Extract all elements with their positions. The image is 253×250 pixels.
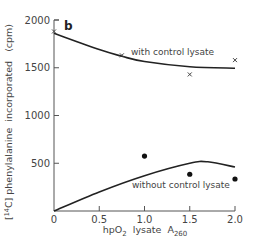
- y-tick-label: 1500: [25, 62, 50, 73]
- dot-marker: [187, 172, 192, 177]
- dot-marker: [232, 176, 237, 181]
- y-axis-label: [14C] phenylalanine incorporated (cpm): [3, 24, 14, 220]
- x-marker: [188, 72, 192, 76]
- y-tick-label: 500: [31, 158, 50, 169]
- panel-label: b: [64, 19, 73, 33]
- x-tick-label: 0: [51, 214, 57, 225]
- y-tick-label: 1000: [25, 110, 50, 121]
- dot-marker: [142, 153, 147, 158]
- y-tick-label: 2000: [25, 15, 50, 26]
- x-axis-label: hpO2 lysate A260: [103, 224, 188, 238]
- x-tick-label: 2.0: [227, 214, 243, 225]
- x-marker: [233, 58, 237, 62]
- annotation-with-control: with control lysate: [131, 47, 215, 57]
- chart: 00.51.01.52.0500100015002000 b with cont…: [0, 0, 253, 250]
- x-tick-label: 1.5: [182, 214, 198, 225]
- annotation-without-control: without control lysate: [132, 180, 230, 190]
